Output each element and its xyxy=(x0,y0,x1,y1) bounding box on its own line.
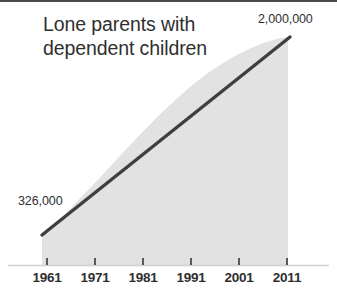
chart-title-line-2: dependent children xyxy=(43,36,253,60)
area-fill-shape xyxy=(42,37,288,265)
chart-container: Lone parents with dependent children 2,0… xyxy=(0,0,337,294)
tick-label-1991: 1991 xyxy=(176,270,205,285)
tick-label-2011: 2011 xyxy=(273,270,302,285)
tick-label-2001: 2001 xyxy=(224,270,253,285)
chart-title-line-1: Lone parents with xyxy=(43,12,253,36)
tick-label-1981: 1981 xyxy=(128,270,157,285)
chart-title: Lone parents with dependent children xyxy=(43,12,253,60)
tick-label-1971: 1971 xyxy=(80,270,109,285)
end-value-label: 2,000,000 xyxy=(258,12,313,26)
start-value-label: 326,000 xyxy=(18,194,63,208)
tick-label-1961: 1961 xyxy=(32,270,61,285)
